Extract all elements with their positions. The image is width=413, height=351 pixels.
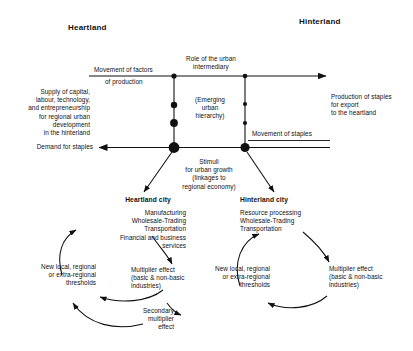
hierarchy-node (243, 102, 247, 106)
hinterland-thresholds-label: New local, regional or extra-regional th… (186, 265, 270, 290)
urban-system-diagram: Heartland Hinterland Role of the urban i… (0, 0, 413, 351)
heartland-city-functions: Manufacturing Wholesale-Trading Transpor… (76, 209, 186, 250)
movement-of-staples-label: Movement of staples (252, 130, 312, 138)
emerging-urban-hierarchy-label: (Emerging urban hierarchy) (184, 96, 236, 121)
hierarchy-node (171, 73, 176, 78)
demand-for-staples-label: Demand for staples (0, 143, 93, 151)
movement-of-factors-label: Movement of factors (94, 66, 153, 74)
role-of-urban-intermediary-label: Role of the urban intermediary (163, 55, 259, 71)
of-production-label: of production (105, 78, 143, 86)
hierarchy-node (243, 121, 247, 125)
hinterland-multiplier-effect-label: Multiplier effect (basic & non-basic ind… (329, 265, 409, 290)
hinterland-city-title: Hinterland city (240, 196, 288, 204)
heartland-header: Heartland (68, 24, 107, 32)
production-of-staples-block: Production of staples for export to the … (331, 93, 413, 118)
hierarchy-node (243, 74, 248, 79)
heartland-hierarchy-axis (169, 73, 180, 153)
supply-of-capital-block: Supply of capital, labour, technology, a… (0, 88, 90, 137)
hierarchy-node (171, 102, 177, 108)
heartland-city-title: Heartland city (110, 196, 186, 204)
heartland-thresholds-label: New local, regional or extra-regional th… (12, 263, 96, 288)
hierarchy-node (240, 143, 249, 152)
stimuli-for-urban-growth-label: Stimuli for urban growth (linkages to re… (158, 158, 260, 191)
hierarchy-node (169, 142, 180, 153)
hinterland-city-functions: Resource processing Wholesale-Trading Tr… (240, 209, 350, 234)
secondary-multiplier-effect-label: Secondary multiplier effect (110, 307, 174, 332)
hierarchy-node (170, 119, 178, 127)
hinterland-header: Hinterland (299, 18, 341, 26)
